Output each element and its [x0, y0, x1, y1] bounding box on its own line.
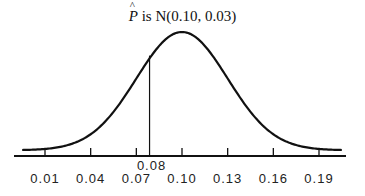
normal-density-curve [22, 32, 342, 150]
x-tick-label: 0.19 [304, 171, 333, 186]
normal-curve-chart: 0.010.040.070.100.130.160.19 0.08 [0, 0, 365, 196]
x-tick-label: 0.10 [167, 171, 196, 186]
marker-label: 0.08 [137, 158, 166, 173]
x-tick-label: 0.04 [76, 171, 105, 186]
x-axis-ticks: 0.010.040.070.100.130.160.19 [30, 148, 333, 186]
x-tick-label: 0.16 [259, 171, 288, 186]
x-tick-label: 0.13 [213, 171, 242, 186]
x-tick-label: 0.01 [30, 171, 59, 186]
x-tick-label: 0.07 [122, 171, 151, 186]
